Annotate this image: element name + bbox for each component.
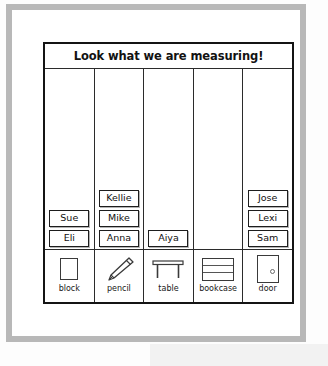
name-card-label: Sam (257, 233, 278, 243)
table-icon-shape (151, 257, 185, 281)
photo-frame: Look what we are measuring! Sue Eli (6, 4, 306, 342)
name-card[interactable]: Anna (99, 230, 139, 247)
name-card[interactable]: Mike (99, 210, 139, 227)
name-card-label: Aiya (158, 233, 179, 243)
name-card[interactable]: Kellie (99, 190, 139, 207)
name-card-label: Jose (258, 193, 277, 203)
name-stack-door: Jose Lexi Sam (243, 69, 292, 250)
name-card[interactable]: Jose (248, 190, 288, 207)
category-label: table (158, 285, 178, 293)
category-cell-pencil: pencil (95, 250, 144, 302)
name-card-label: Anna (107, 233, 131, 243)
chart-column-door: Jose Lexi Sam (243, 69, 292, 302)
category-cell-door: door (243, 250, 292, 302)
name-card-label: Mike (108, 213, 130, 223)
chart-columns: Sue Eli block (45, 69, 292, 302)
block-icon-shape (60, 258, 78, 280)
chart-column-table: Aiya table (144, 69, 194, 302)
scan-shadow-strip (150, 344, 328, 366)
door-icon-shape (257, 255, 279, 283)
bookcase-shelf (203, 272, 233, 273)
category-cell-bookcase: bookcase (194, 250, 243, 302)
category-label: block (59, 285, 80, 293)
name-card-label: Kellie (106, 193, 131, 203)
name-stack-table: Aiya (144, 69, 193, 250)
name-stack-bookcase (194, 69, 243, 250)
block-icon (46, 254, 92, 284)
door-icon (245, 254, 291, 284)
name-card[interactable]: Eli (49, 230, 89, 247)
table-icon (145, 254, 191, 284)
name-card[interactable]: Lexi (248, 210, 288, 227)
pencil-icon (96, 254, 142, 284)
category-label: pencil (107, 285, 131, 293)
bookcase-icon-shape (202, 258, 234, 281)
chart-column-block: Sue Eli block (45, 69, 95, 302)
name-stack-pencil: Kellie Mike Anna (95, 69, 144, 250)
bookcase-icon (195, 254, 241, 284)
name-card[interactable]: Sue (49, 210, 89, 227)
name-card[interactable]: Aiya (148, 230, 188, 247)
scanned-page-area: Look what we are measuring! Sue Eli (0, 0, 328, 366)
name-stack-block: Sue Eli (45, 69, 94, 250)
category-cell-table: table (144, 250, 193, 302)
worksheet-page: Look what we are measuring! Sue Eli (12, 10, 300, 336)
name-card-label: Lexi (258, 213, 277, 223)
category-cell-block: block (45, 250, 94, 302)
pencil-icon-shape (102, 256, 136, 282)
category-label: door (259, 285, 277, 293)
name-card-label: Sue (60, 213, 78, 223)
name-card[interactable]: Sam (248, 230, 288, 247)
chart-column-pencil: Kellie Mike Anna (95, 69, 145, 302)
door-knob-icon (270, 269, 275, 274)
chart-title-row: Look what we are measuring! (45, 44, 292, 69)
page-title: Look what we are measuring! (74, 49, 264, 63)
measuring-pictograph-chart: Look what we are measuring! Sue Eli (43, 42, 294, 304)
bookcase-shelf (203, 265, 233, 266)
chart-column-bookcase: bookcase (194, 69, 244, 302)
category-label: bookcase (199, 285, 237, 293)
name-card-label: Eli (64, 233, 75, 243)
